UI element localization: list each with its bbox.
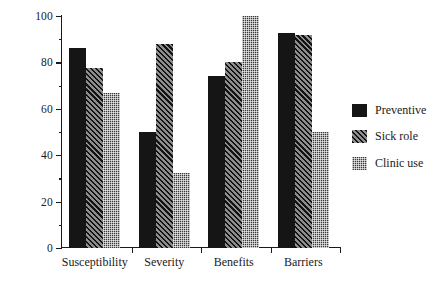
bar-sick-role-severity [156, 44, 173, 248]
y-tick-mark [56, 248, 62, 249]
bar-sick-role-susceptibility [86, 68, 103, 248]
y-tick-label: 40 [41, 149, 53, 161]
bar-preventive-severity [139, 132, 156, 248]
y-tick-label: 20 [41, 196, 53, 208]
legend-swatch-solid-icon [352, 104, 367, 117]
y-tick-label: 60 [41, 103, 53, 115]
x-tick-mark [340, 248, 341, 253]
legend-item-sick-role[interactable]: Sick role [352, 127, 426, 147]
bar-clinic-use-severity [173, 173, 190, 248]
bar-preventive-barriers [278, 33, 295, 248]
legend-swatch-stipple-icon [352, 157, 367, 170]
x-axis-label-susceptibility: Susceptibility [62, 255, 128, 270]
chart-legend: PreventiveSick roleClinic use [352, 100, 426, 180]
bar-preventive-benefits [208, 76, 225, 248]
x-tick-mark [201, 248, 202, 253]
bar-chart-figure: Significance ratio (%) 020406080100 Susc… [0, 0, 443, 289]
y-tick-label: 0 [47, 242, 53, 254]
bar-clinic-use-susceptibility [103, 93, 120, 248]
plot-area [62, 16, 340, 248]
y-tick-label: 100 [35, 10, 53, 22]
x-axis-label-benefits: Benefits [214, 255, 254, 270]
y-tick-label: 80 [41, 56, 53, 68]
bar-clinic-use-benefits [242, 16, 259, 248]
legend-label: Sick role [375, 129, 418, 144]
x-tick-mark [271, 248, 272, 253]
legend-label: Preventive [375, 103, 426, 118]
legend-item-preventive[interactable]: Preventive [352, 100, 426, 120]
bar-sick-role-benefits [225, 62, 242, 248]
legend-swatch-hatch-icon [352, 130, 367, 143]
x-tick-mark [132, 248, 133, 253]
bar-preventive-susceptibility [69, 48, 86, 248]
bar-clinic-use-barriers [312, 132, 329, 248]
x-axis-label-barriers: Barriers [284, 255, 323, 270]
legend-item-clinic-use[interactable]: Clinic use [352, 153, 426, 173]
x-axis-label-severity: Severity [144, 255, 184, 270]
legend-label: Clinic use [375, 156, 423, 171]
bar-sick-role-barriers [295, 35, 312, 248]
